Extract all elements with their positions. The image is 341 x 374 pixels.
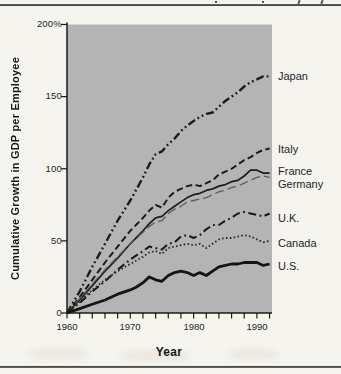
series-label-us: U.S. [278, 260, 299, 273]
y-tick-label-100: 100 [18, 163, 62, 175]
x-tick-label-1970: 1970 [110, 321, 150, 333]
y-tick-label-200: 200% [18, 18, 62, 30]
series-label-italy: Italy [278, 143, 298, 156]
y-tick-label-0: 0 [18, 307, 62, 319]
series-label-canada: Canada [278, 237, 317, 250]
x-tick-label-1960: 1960 [47, 321, 87, 333]
series-label-japan: Japan [278, 70, 308, 83]
y-tick-label-150: 150 [18, 90, 62, 102]
series-label-uk: U.K. [278, 212, 299, 225]
series-label-germany: Germany [278, 178, 323, 191]
x-axis-title: Year [69, 345, 269, 359]
y-tick-label-50: 50 [18, 235, 62, 247]
series-label-france: France [278, 165, 312, 178]
bottom-horizontal-rule [0, 366, 341, 368]
scanned-page: { "chart_data": { "type": "line", "title… [0, 0, 341, 374]
x-tick-label-1990: 1990 [237, 321, 277, 333]
x-tick-label-1980: 1980 [174, 321, 214, 333]
